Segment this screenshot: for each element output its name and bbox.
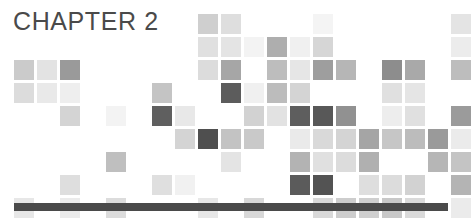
mosaic-tile (152, 106, 172, 126)
mosaic-tile (290, 106, 310, 126)
mosaic-tile (451, 37, 471, 57)
mosaic-tile (405, 175, 425, 195)
mosaic-tile (290, 37, 310, 57)
mosaic-tile (336, 152, 356, 172)
mosaic-tile (336, 106, 356, 126)
mosaic-tile (267, 106, 287, 126)
mosaic-tile (382, 129, 402, 149)
mosaic-tile (382, 60, 402, 80)
mosaic-tile (60, 106, 80, 126)
mosaic-tile (290, 60, 310, 80)
mosaic-tile (405, 129, 425, 149)
mosaic-tile (313, 152, 333, 172)
mosaic-tile (198, 14, 218, 34)
mosaic-tile (451, 106, 471, 126)
mosaic-tile (198, 60, 218, 80)
mosaic-tile (451, 175, 471, 195)
mosaic-tile (60, 60, 80, 80)
mosaic-tile (221, 37, 241, 57)
mosaic-tile (198, 37, 218, 57)
mosaic-tile (313, 14, 333, 34)
mosaic-tile (451, 198, 471, 218)
mosaic-tile (428, 129, 448, 149)
mosaic-tile (359, 129, 379, 149)
mosaic-tile (175, 106, 195, 126)
mosaic-tile (244, 83, 264, 103)
mosaic-tile (405, 106, 425, 126)
mosaic-tile (382, 106, 402, 126)
mosaic-tile (290, 152, 310, 172)
mosaic-tile (313, 175, 333, 195)
mosaic-tile (290, 83, 310, 103)
mosaic-tile (221, 60, 241, 80)
mosaic-tile (152, 83, 172, 103)
mosaic-tile (313, 106, 333, 126)
mosaic-tile (428, 152, 448, 172)
mosaic-tile (336, 129, 356, 149)
mosaic-tile (106, 152, 126, 172)
mosaic-tile (313, 129, 333, 149)
mosaic-tile (14, 83, 34, 103)
mosaic-tile (451, 152, 471, 172)
mosaic-tile (198, 129, 218, 149)
mosaic-tile (451, 129, 471, 149)
mosaic-tile (60, 83, 80, 103)
mosaic-tile (336, 60, 356, 80)
mosaic-tile (267, 37, 287, 57)
mosaic-tile (60, 175, 80, 195)
mosaic-tile (152, 175, 172, 195)
mosaic-tile (290, 175, 310, 195)
mosaic-tile (405, 60, 425, 80)
mosaic-tile (221, 14, 241, 34)
mosaic-tile (359, 175, 379, 195)
mosaic-tile (451, 14, 471, 34)
mosaic-tile (405, 83, 425, 103)
mosaic-tile (359, 152, 379, 172)
mosaic-tile (175, 129, 195, 149)
mosaic-tile (267, 83, 287, 103)
mosaic-tile (382, 83, 402, 103)
mosaic-tile (106, 106, 126, 126)
mosaic-tile (267, 60, 287, 80)
horizontal-rule (14, 203, 448, 211)
mosaic-tile (221, 152, 241, 172)
mosaic-tile (382, 175, 402, 195)
mosaic-tile (313, 37, 333, 57)
mosaic-tile (313, 60, 333, 80)
mosaic-tile (37, 83, 57, 103)
mosaic-tile (175, 175, 195, 195)
mosaic-tile (244, 129, 264, 149)
mosaic-tile (451, 60, 471, 80)
mosaic-tile (221, 83, 241, 103)
page-title: CHAPTER 2 (13, 6, 159, 36)
mosaic-tile (14, 60, 34, 80)
mosaic-tile (221, 129, 241, 149)
mosaic-tile (244, 37, 264, 57)
mosaic-tile (244, 106, 264, 126)
mosaic-tile (290, 129, 310, 149)
mosaic-tile (37, 60, 57, 80)
